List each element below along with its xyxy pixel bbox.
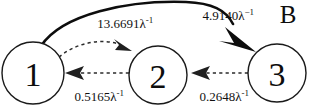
- edge-1-to-3-label: 4.9140λ−1: [180, 3, 271, 23]
- edge-1-to-2-arc: [59, 42, 119, 57]
- edge-3-to-2-label-exponent: -1: [242, 88, 250, 98]
- edge-3-to-2-label-base: 0.2648λ: [199, 89, 242, 104]
- edge-1-to-2: [59, 39, 132, 57]
- edge-1-to-2-label-exponent: -1: [146, 15, 154, 25]
- edge-3-to-2-label: 0.2648λ-1: [177, 84, 266, 104]
- edge-1-to-3-arrowhead: [219, 27, 256, 52]
- edge-2-to-1-label: 0.5165λ-1: [52, 84, 141, 104]
- edge-1-to-3-label-exponent: −1: [244, 7, 254, 17]
- node-1-label: 1: [25, 56, 42, 93]
- edge-2-to-1: [65, 66, 129, 80]
- edge-1-to-2-label-base: 13.6691λ: [97, 16, 146, 31]
- edge-2-to-1-label-base: 0.5165λ: [74, 89, 117, 104]
- edge-1-to-3-label-base: 4.9140λ: [202, 8, 245, 23]
- transition-rate-diagram: 1 2 3 13.6691λ-1 4.9140λ−1 0.5165λ-1 0.2…: [0, 0, 311, 111]
- node-2-label: 2: [150, 58, 167, 95]
- edge-1-to-2-arrowhead: [114, 39, 132, 51]
- panel-letter: B: [280, 1, 297, 28]
- node-3-label: 3: [269, 56, 286, 93]
- diagram-canvas: 1 2 3 13.6691λ-1 4.9140λ−1 0.5165λ-1 0.2…: [0, 0, 311, 111]
- edge-2-to-1-label-exponent: -1: [117, 88, 125, 98]
- edge-3-to-2: [191, 66, 248, 80]
